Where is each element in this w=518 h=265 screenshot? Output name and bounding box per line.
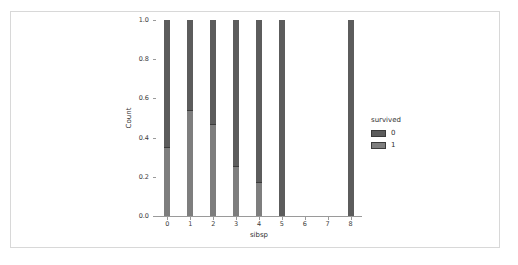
bar-stack[interactable] bbox=[164, 20, 170, 216]
bar-segment-survived-0[interactable] bbox=[233, 20, 239, 167]
bar-segment-survived-0[interactable] bbox=[348, 20, 354, 216]
x-tick-label: 0 bbox=[165, 220, 169, 228]
bar-segment-survived-1[interactable] bbox=[187, 111, 193, 216]
y-tick-label: 0.2 bbox=[139, 173, 149, 181]
bar-stack[interactable] bbox=[348, 20, 354, 216]
bar-segment-survived-0[interactable] bbox=[164, 20, 170, 148]
x-tick-label: 4 bbox=[257, 220, 261, 228]
y-tick-label: 0.6 bbox=[139, 94, 149, 102]
bar-stack[interactable] bbox=[256, 20, 262, 216]
y-tick-label: 0.8 bbox=[139, 55, 149, 63]
y-tick-label: 0.0 bbox=[139, 212, 149, 220]
y-tick-label: 0.4 bbox=[139, 134, 149, 142]
x-tick-label: 7 bbox=[326, 220, 330, 228]
x-tick-label: 3 bbox=[234, 220, 238, 228]
y-tick-label: 1.0 bbox=[139, 16, 149, 24]
legend-items: 01 bbox=[371, 128, 441, 150]
bar-segment-divider bbox=[164, 147, 170, 148]
bar-segment-survived-0[interactable] bbox=[187, 20, 193, 111]
bar-stack[interactable] bbox=[279, 20, 285, 216]
figure-canvas: 0.00.20.40.60.81.0 Count sibsp survived … bbox=[11, 12, 501, 249]
bar-segment-divider bbox=[210, 124, 216, 125]
bar-stack[interactable] bbox=[187, 20, 193, 216]
bar-segment-divider bbox=[187, 110, 193, 111]
x-tick-label: 1 bbox=[188, 220, 192, 228]
bar-segment-survived-0[interactable] bbox=[210, 20, 216, 125]
plot-area bbox=[156, 20, 362, 216]
x-tick-label: 8 bbox=[348, 220, 352, 228]
legend-label: 0 bbox=[391, 130, 395, 137]
bar-segment-survived-1[interactable] bbox=[233, 167, 239, 216]
chart-output-card: 0.00.20.40.60.81.0 Count sibsp survived … bbox=[10, 11, 500, 248]
bar-stack[interactable] bbox=[233, 20, 239, 216]
legend-swatch bbox=[371, 142, 386, 149]
bar-segment-survived-1[interactable] bbox=[164, 148, 170, 216]
x-axis-label: sibsp bbox=[156, 231, 362, 239]
x-tick-label: 6 bbox=[303, 220, 307, 228]
bar-segment-divider bbox=[256, 182, 262, 183]
legend-item[interactable]: 1 bbox=[371, 140, 441, 150]
x-tick-label: 2 bbox=[211, 220, 215, 228]
bar-segment-survived-1[interactable] bbox=[210, 125, 216, 216]
legend-swatch bbox=[371, 130, 386, 137]
bar-segment-divider bbox=[233, 166, 239, 167]
x-tick-label: 5 bbox=[280, 220, 284, 228]
bar-segment-survived-1[interactable] bbox=[256, 183, 262, 216]
bar-segment-survived-0[interactable] bbox=[256, 20, 262, 183]
legend-item[interactable]: 0 bbox=[371, 128, 441, 138]
bar-segment-survived-0[interactable] bbox=[279, 20, 285, 216]
legend-label: 1 bbox=[391, 142, 395, 149]
legend-title: survived bbox=[371, 116, 441, 124]
y-axis-label: Count bbox=[125, 108, 133, 129]
bar-stack[interactable] bbox=[210, 20, 216, 216]
y-axis-ticks: 0.00.20.40.60.81.0 bbox=[11, 12, 156, 249]
clipped-top-text bbox=[3, 0, 63, 8]
legend: survived 01 bbox=[371, 116, 441, 152]
